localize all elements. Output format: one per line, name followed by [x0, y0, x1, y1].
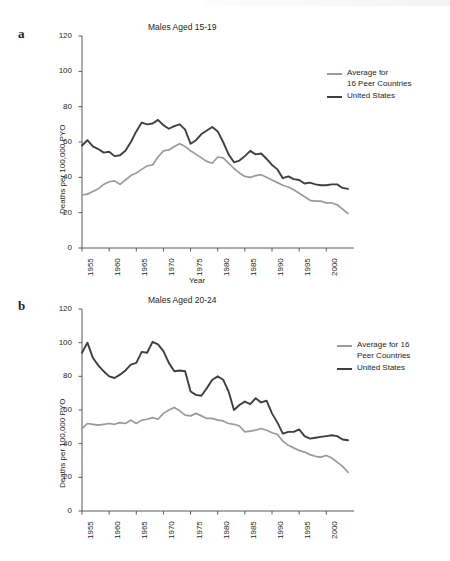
x-tick-label: 1980: [222, 258, 231, 276]
y-tick-label: 120: [46, 31, 72, 40]
x-tick-label: 1990: [276, 258, 285, 276]
series-line-peer-average: [82, 407, 348, 472]
x-tick-label: 1985: [249, 521, 258, 539]
x-tick-label: 1990: [276, 521, 285, 539]
y-tick-label: 40: [46, 172, 72, 181]
x-tick-label: 1970: [167, 521, 176, 539]
x-tick-label: 1985: [249, 258, 258, 276]
x-tick-label: 1980: [222, 521, 231, 539]
x-tick-label: 2000: [330, 521, 339, 539]
x-tick-label: 1995: [303, 258, 312, 276]
x-tick-label: 1995: [303, 521, 312, 539]
x-tick-label: 1965: [140, 521, 149, 539]
y-tick-label: 60: [46, 405, 72, 414]
y-tick-label: 80: [46, 371, 72, 380]
y-tick-label: 120: [46, 304, 72, 313]
y-tick-label: 20: [46, 208, 72, 217]
x-tick-label: 1965: [140, 258, 149, 276]
x-tick-label: 2000: [330, 258, 339, 276]
y-tick-label: 100: [46, 66, 72, 75]
chart-panel-a: a Males Aged 15-19 Deaths per 100,000 PY…: [0, 14, 450, 290]
x-tick-label: 1960: [113, 521, 122, 539]
y-tick-label: 100: [46, 338, 72, 347]
y-tick-label: 80: [46, 102, 72, 111]
y-tick-label: 60: [46, 137, 72, 146]
chart-panel-b: b Males Aged 20-24 Deaths per 100,000 PY…: [0, 290, 450, 561]
x-tick-label: 1955: [86, 258, 95, 276]
scan-artifact: [205, 0, 450, 6]
series-line-united-states: [82, 342, 348, 440]
y-tick-label: 0: [46, 506, 72, 515]
x-tick-label: 1955: [86, 521, 95, 539]
x-tick-label: 1960: [113, 258, 122, 276]
x-tick-label: 1975: [195, 258, 204, 276]
series-line-united-states: [82, 120, 348, 189]
y-tick-label: 0: [46, 243, 72, 252]
y-tick-label: 20: [46, 472, 72, 481]
x-tick-label: 1970: [167, 258, 176, 276]
x-tick-label: 1975: [195, 521, 204, 539]
y-tick-label: 40: [46, 439, 72, 448]
